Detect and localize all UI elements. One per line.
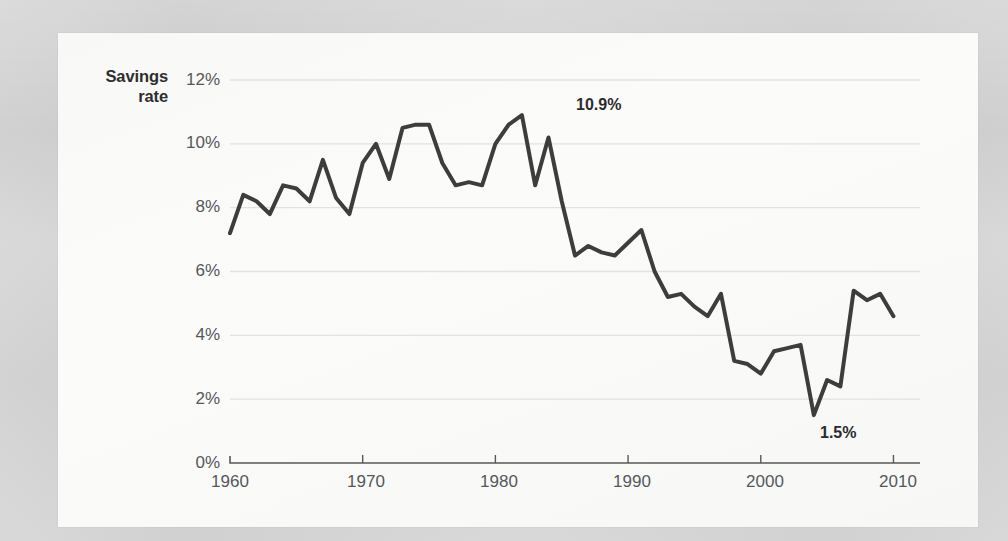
line-chart-plot <box>0 0 1008 541</box>
x-axis-line <box>230 456 920 463</box>
savings-rate-line <box>230 115 893 415</box>
gridlines <box>230 80 920 399</box>
screenshot-root: Savings rate 12% 10% 8% 6% 4% 2% 0% 1960… <box>0 0 1008 541</box>
x-axis-ticks <box>363 455 894 463</box>
